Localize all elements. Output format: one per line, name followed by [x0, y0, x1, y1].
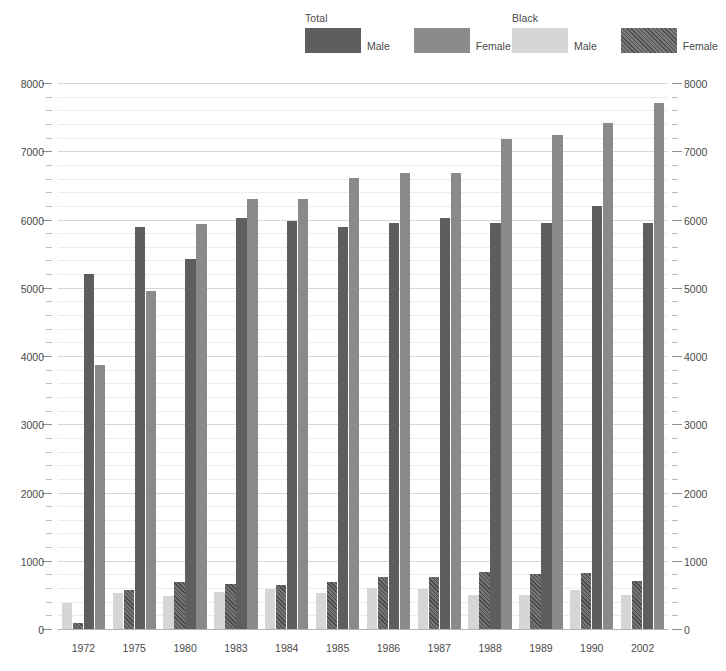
bar-group — [363, 84, 414, 630]
bar-bm[interactable] — [265, 589, 275, 630]
bar-tm[interactable] — [84, 274, 94, 630]
y-tick-left — [46, 179, 52, 180]
y-axis-label-left: 0 — [38, 624, 44, 636]
legend-label-total-female: Female — [476, 40, 511, 53]
y-tick-left — [46, 506, 52, 507]
bar-tm[interactable] — [338, 227, 348, 630]
y-tick-right — [672, 493, 682, 494]
y-axis-label-right: 7000 — [684, 146, 707, 158]
bar-tf[interactable] — [146, 291, 156, 630]
y-tick-right — [672, 342, 678, 343]
bar-bf[interactable] — [378, 577, 388, 630]
legend-group-black-title: Black — [512, 12, 726, 24]
y-tick-left — [46, 260, 52, 261]
black-female-swatch — [621, 28, 677, 53]
bar-bf[interactable] — [276, 585, 286, 630]
y-tick-right — [672, 465, 678, 466]
bar-group — [261, 84, 312, 630]
legend-group-black: Black Male Female — [512, 12, 726, 53]
bar-bm[interactable] — [316, 593, 326, 630]
bar-tf[interactable] — [247, 199, 257, 630]
legend-item-total-male[interactable]: Male — [305, 28, 390, 53]
bar-bm[interactable] — [113, 593, 123, 630]
y-tick-left — [46, 138, 52, 139]
legend-item-black-female[interactable]: Female — [621, 28, 718, 53]
bar-tm[interactable] — [592, 206, 602, 630]
y-tick-left — [46, 315, 52, 316]
bar-tf[interactable] — [400, 173, 410, 630]
bar-bm[interactable] — [163, 596, 173, 630]
legend-item-total-female[interactable]: Female — [414, 28, 511, 53]
x-axis-label: 1975 — [109, 642, 160, 654]
bar-tm[interactable] — [236, 218, 246, 630]
y-tick-right — [672, 179, 678, 180]
bar-bf[interactable] — [429, 577, 439, 630]
bar-bm[interactable] — [62, 603, 72, 630]
bar-groups — [58, 84, 668, 630]
bar-bf[interactable] — [124, 590, 134, 630]
bar-tf[interactable] — [501, 139, 511, 630]
y-tick-left — [46, 520, 52, 521]
x-axis: 1972197519801983198419851986198719881989… — [58, 636, 668, 660]
y-axis-label-left: 5000 — [21, 283, 44, 295]
y-axis-label-left: 3000 — [21, 419, 44, 431]
bar-bm[interactable] — [519, 595, 529, 630]
bar-tm[interactable] — [135, 227, 145, 630]
bar-bf[interactable] — [530, 574, 540, 630]
bar-bm[interactable] — [418, 589, 428, 630]
x-axis-label: 1980 — [160, 642, 211, 654]
y-tick-right — [672, 301, 678, 302]
bar-group — [312, 84, 363, 630]
bar-bf[interactable] — [225, 584, 235, 630]
legend-group-total: Total Male Female — [305, 12, 535, 53]
bar-tm[interactable] — [440, 218, 450, 630]
legend-item-black-male[interactable]: Male — [512, 28, 597, 53]
bar-bf[interactable] — [632, 581, 642, 630]
y-tick-right — [672, 356, 682, 357]
y-tick-right — [672, 370, 678, 371]
y-tick-left — [46, 438, 52, 439]
bar-group — [58, 84, 109, 630]
bar-bm[interactable] — [214, 592, 224, 630]
y-axis-label-left: 7000 — [21, 146, 44, 158]
chart-legend: Total Male Female Black Male — [0, 0, 726, 70]
bar-tm[interactable] — [389, 223, 399, 630]
bar-tm[interactable] — [185, 259, 195, 630]
y-axis-label-right: 0 — [684, 624, 690, 636]
y-tick-left — [46, 602, 52, 603]
y-tick-right — [672, 547, 678, 548]
bar-bm[interactable] — [570, 590, 580, 630]
bar-tf[interactable] — [603, 123, 613, 630]
bar-tm[interactable] — [541, 223, 551, 630]
y-axis-label-right: 6000 — [684, 215, 707, 227]
y-tick-right — [672, 438, 678, 439]
y-tick-left — [46, 233, 52, 234]
bar-bf[interactable] — [581, 573, 591, 630]
bar-tf[interactable] — [298, 199, 308, 630]
bar-tf[interactable] — [552, 135, 562, 630]
bar-bm[interactable] — [621, 595, 631, 630]
y-tick-left — [46, 342, 52, 343]
bar-tf[interactable] — [95, 365, 105, 630]
y-tick-left — [46, 247, 52, 248]
bar-tf[interactable] — [451, 173, 461, 630]
bar-tm[interactable] — [287, 221, 297, 631]
bar-bf[interactable] — [327, 582, 337, 630]
bar-tf[interactable] — [196, 224, 206, 630]
y-tick-right — [672, 233, 678, 234]
bar-group — [160, 84, 211, 630]
y-tick-right — [672, 274, 678, 275]
bar-tf[interactable] — [654, 103, 664, 630]
bar-bm[interactable] — [468, 595, 478, 630]
bar-bf[interactable] — [174, 582, 184, 630]
bar-bf[interactable] — [479, 572, 489, 630]
black-male-swatch — [512, 28, 568, 53]
bar-tm[interactable] — [643, 223, 653, 630]
y-tick-left — [46, 301, 52, 302]
x-axis-label: 1985 — [312, 642, 363, 654]
bar-tf[interactable] — [349, 178, 359, 630]
y-axis-label-left: 1000 — [21, 556, 44, 568]
y-tick-right — [672, 220, 682, 221]
bar-tm[interactable] — [490, 223, 500, 630]
bar-bm[interactable] — [367, 588, 377, 630]
